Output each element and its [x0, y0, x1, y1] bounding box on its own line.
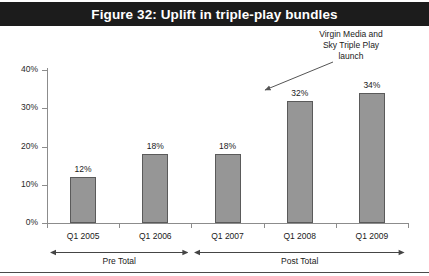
bar-value-label: 18%: [206, 141, 250, 151]
x-axis-tick: [119, 223, 120, 228]
y-axis-tick-label: 40%: [12, 64, 38, 74]
y-axis-tick: [42, 108, 47, 109]
x-axis-category-label: Q1 2008: [264, 231, 336, 241]
y-axis-tick-label: 20%: [12, 141, 38, 151]
x-axis-line: [47, 223, 408, 224]
y-axis-tick-label: 0%: [12, 217, 38, 227]
bar: [215, 154, 241, 223]
y-axis-tick: [42, 185, 47, 186]
bar: [142, 154, 168, 223]
x-axis-tick: [47, 223, 48, 228]
bottom-divider: [0, 272, 429, 273]
y-axis-tick-label: 30%: [12, 102, 38, 112]
y-axis-line: [47, 68, 48, 224]
bar-value-label: 34%: [350, 80, 394, 90]
y-axis-tick-label: 10%: [12, 179, 38, 189]
x-axis-tick: [191, 223, 192, 228]
x-axis-tick: [408, 223, 409, 228]
bar: [287, 101, 313, 223]
page-title: Figure 32: Uplift in triple-play bundles: [91, 7, 337, 22]
x-axis-category-label: Q1 2005: [47, 231, 119, 241]
y-axis-tick: [42, 147, 47, 148]
x-axis-category-label: Q1 2007: [192, 231, 264, 241]
x-axis-category-label: Q1 2006: [119, 231, 191, 241]
bar-value-label: 12%: [61, 164, 105, 174]
annotation-line-2: Sky Triple Play: [288, 40, 414, 51]
bar: [70, 177, 96, 223]
annotation-arrow-icon: [255, 56, 345, 106]
annotation-line-1: Virgin Media and: [288, 29, 414, 40]
chart-plot-area: 0%10%20%30%40% 12%18%18%32%34% Q1 2005Q1…: [0, 26, 429, 254]
x-axis-category-label: Q1 2009: [336, 231, 408, 241]
group-label: Post Total: [194, 256, 405, 266]
y-axis-tick: [42, 70, 47, 71]
figure-title-bar: Figure 32: Uplift in triple-play bundles: [0, 2, 429, 26]
bar-value-label: 18%: [133, 141, 177, 151]
bar: [359, 93, 385, 223]
x-axis-tick: [336, 223, 337, 228]
group-label: Pre Total: [50, 256, 188, 266]
x-axis-tick: [264, 223, 265, 228]
